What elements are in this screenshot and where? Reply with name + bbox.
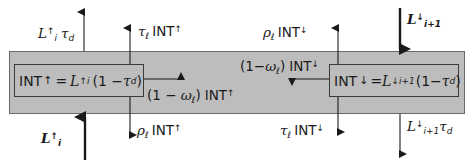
tau-subscript: d: [447, 126, 453, 136]
label-transmitted-up: L↑iτd: [38, 27, 74, 43]
tau-symbol: τ: [61, 25, 68, 41]
label-absorbed-down: (1−ωℓ)INT↓: [240, 60, 319, 76]
layer-index: i: [55, 33, 58, 43]
layer-index: i: [58, 138, 61, 148]
int-label: INT: [289, 58, 311, 74]
label-reflected-up: ρℓINT↓: [263, 26, 308, 42]
leaf-subscript: ℓ: [271, 32, 275, 42]
up-arrow-icon: ↑: [51, 131, 59, 141]
up-arrow-icon: ↑: [175, 24, 183, 34]
tau-subscript: d: [69, 33, 75, 43]
int-label: INT: [294, 122, 316, 138]
label-incoming-down: L↓i+1: [407, 13, 441, 29]
factor-close: ): [280, 58, 285, 74]
radiance-symbol: L: [41, 130, 51, 146]
tau-symbol: τ: [439, 118, 446, 134]
label-transmitted-down: L↓i+1τd: [407, 120, 452, 136]
label-emitted-up: τℓINT↑: [138, 25, 182, 41]
down-arrow-icon: ↓: [417, 12, 425, 22]
leaf-subscript: ℓ: [287, 130, 291, 140]
rho-symbol: ρ: [137, 122, 145, 138]
leaf-subscript: ℓ: [145, 130, 149, 140]
int-label: INT: [205, 87, 227, 103]
factor-open: (1 −: [147, 87, 181, 103]
label-incoming-up: L↑i: [41, 132, 61, 148]
label-reflected-down: ρℓINT↑: [137, 124, 182, 140]
label-emitted-down: τℓINT↓: [280, 124, 324, 140]
up-arrow-icon: ↑: [227, 88, 235, 98]
omega-symbol: ω: [265, 58, 276, 74]
flux-arrows: [0, 0, 474, 166]
factor-open: (1−: [240, 58, 265, 74]
layer-index: i+1: [424, 19, 441, 29]
down-arrow-icon: ↓: [317, 123, 325, 133]
radiance-symbol: L: [38, 25, 47, 41]
up-arrow-icon: ↑: [174, 123, 182, 133]
factor-close: ): [195, 87, 200, 103]
down-arrow-icon: ↓: [312, 59, 320, 69]
label-absorbed-up: (1 − ωℓ)INT↑: [147, 89, 235, 105]
radiance-symbol: L: [407, 11, 417, 27]
down-arrow-icon: ↓: [416, 119, 424, 129]
layer-index: i+1: [424, 126, 440, 136]
rho-symbol: ρ: [263, 24, 271, 40]
radiance-symbol: L: [407, 118, 416, 134]
int-label: INT: [152, 122, 174, 138]
up-arrow-icon: ↑: [47, 26, 55, 36]
layer-diagram: INT ↑ = L ↑ i (1 − τ d ) INT ↓ = L ↓ i+1…: [0, 0, 474, 166]
down-arrow-icon: ↓: [300, 25, 308, 35]
omega-symbol: ω: [181, 87, 192, 103]
int-label: INT: [278, 24, 300, 40]
leaf-subscript: ℓ: [145, 31, 149, 41]
int-label: INT: [152, 23, 174, 39]
